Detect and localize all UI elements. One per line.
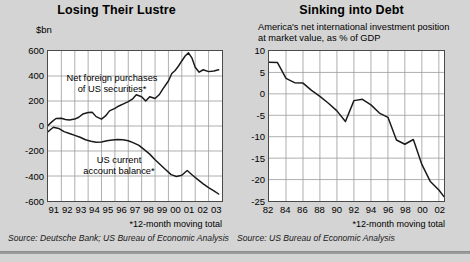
x-tick-right-7: 96	[383, 204, 394, 215]
y-tick-right-4: -10	[251, 131, 265, 142]
economist-chart-figure: Losing Their Lustre $bn 600 400 200 0 -2…	[0, 0, 470, 262]
x-axis-ticks-left: 91 92 93 94 95 96 97 98 99 00 01 02 03	[0, 204, 233, 218]
grid-vertical-right	[286, 51, 439, 201]
x-tick-left-8: 99	[157, 204, 168, 215]
source-right: Source: US Bureau of Economic Analysis	[237, 233, 395, 243]
x-tick-left-4: 95	[103, 204, 114, 215]
x-tick-left-0: 91	[49, 204, 60, 215]
y-tick-right-2: 0	[260, 88, 265, 99]
y-tick-left-3: 0	[39, 120, 44, 131]
x-tick-right-6: 94	[366, 204, 377, 215]
chart-caption-line1: America's net international investment p…	[258, 22, 449, 32]
x-tick-left-10: 01	[184, 204, 195, 215]
chart-caption-right: America's net international investment p…	[258, 22, 449, 44]
x-tick-right-10: 02	[435, 204, 446, 215]
x-tick-right-1: 84	[280, 204, 291, 215]
series-annotation-line1: Net foreign purchases	[67, 73, 158, 83]
y-tick-left-4: -200	[25, 145, 44, 156]
x-tick-right-9: 00	[417, 204, 428, 215]
source-left: Source: Deutsche Bank; US Bureau of Econ…	[8, 233, 229, 243]
series-annotation-line2: account balance*	[83, 166, 154, 176]
y-tick-right-3: -5	[257, 109, 265, 120]
y-tick-right-0: 10	[254, 45, 265, 56]
series-annotation-net-foreign-purchases: Net foreign purchases of US securities*	[57, 73, 167, 95]
x-tick-left-12: 03	[211, 204, 222, 215]
x-tick-left-11: 02	[197, 204, 208, 215]
x-tick-right-3: 88	[314, 204, 325, 215]
y-tick-right-5: -15	[251, 152, 265, 163]
x-tick-left-1: 92	[62, 204, 73, 215]
x-tick-right-8: 98	[400, 204, 411, 215]
x-tick-right-5: 92	[349, 204, 360, 215]
chart-caption-line2: at market value, as % of GDP	[258, 33, 380, 43]
y-tick-left-0: 600	[28, 45, 44, 56]
x-tick-right-2: 86	[297, 204, 308, 215]
y-tick-left-2: 200	[28, 95, 44, 106]
x-tick-left-5: 96	[116, 204, 127, 215]
x-tick-left-9: 00	[170, 204, 181, 215]
series-line-net-investment-position	[269, 62, 444, 196]
x-tick-right-4: 90	[331, 204, 342, 215]
panel-sinking-into-debt: Sinking into Debt America's net internat…	[233, 0, 470, 248]
y-tick-left-5: -400	[25, 171, 44, 182]
series-annotation-line2: of US securities*	[78, 84, 147, 94]
grid-horizontal-right	[269, 72, 444, 179]
panel-losing-their-lustre: Losing Their Lustre $bn 600 400 200 0 -2…	[0, 0, 233, 248]
plot-area-right	[268, 50, 445, 202]
x-tick-right-0: 82	[263, 204, 274, 215]
plot-svg-right	[269, 51, 444, 201]
footnote-right: *12-month moving total	[352, 219, 445, 229]
x-axis-ticks-right: 82 84 86 88 90 92 94 96 98 00 02	[233, 204, 470, 218]
x-tick-left-2: 93	[76, 204, 87, 215]
y-tick-left-1: 400	[28, 70, 44, 81]
footnote-left: *12-month moving total	[129, 219, 222, 229]
bottom-divider	[0, 251, 470, 254]
series-annotation-line1: US current	[97, 155, 141, 165]
x-tick-left-6: 97	[130, 204, 141, 215]
page-title-right: Sinking into Debt	[233, 3, 470, 17]
y-tick-right-1: 5	[260, 66, 265, 77]
y-tick-right-6: -20	[251, 174, 265, 185]
x-tick-left-7: 98	[143, 204, 154, 215]
series-annotation-us-current-account: US current account balance*	[73, 155, 165, 177]
x-tick-left-3: 94	[89, 204, 100, 215]
